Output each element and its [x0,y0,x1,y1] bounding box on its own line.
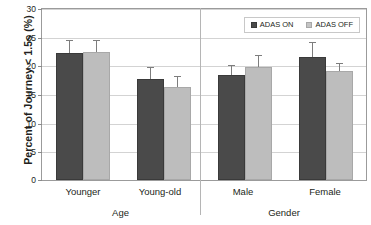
legend: ADAS ON ADAS OFF [244,17,360,33]
y-tick-label-10: 10 [27,120,36,128]
tick-mark-0 [38,180,42,181]
error-bar-cap [228,65,235,66]
y-tick-label-20: 20 [27,62,36,70]
y-tick-label-25: 25 [27,34,36,42]
bar-male-adas-off [245,67,272,180]
error-bar-cap [255,55,262,56]
bar-female-adas-on [299,57,326,180]
error-bar-male-adas-off [258,55,259,68]
legend-swatch-icon-adas-on [251,22,257,28]
y-tick-label-5: 5 [31,148,36,156]
bars-layer [42,9,366,180]
error-bar-male-adas-on [231,65,232,74]
bar-chart: Percent of Journey < 1.5s (%) 30 25 20 1… [0,0,371,225]
group-label-gender: Gender [201,207,367,218]
error-bar-young-old-adas-on [150,67,151,78]
bar-younger-adas-on [56,53,83,180]
y-tick-label-15: 15 [27,91,36,99]
y-tick-label-30: 30 [27,5,36,13]
error-bar-cap [147,67,154,68]
y-tick-label-0: 0 [31,176,36,184]
error-bar-younger-adas-on [69,40,70,53]
error-bar-young-old-adas-off [177,76,178,87]
error-bar-younger-adas-off [96,40,97,53]
bar-young-old-adas-on [137,79,164,180]
legend-swatch-icon-adas-off [306,22,312,28]
error-bar-cap [309,42,316,43]
category-label-younger: Younger [43,186,123,197]
error-bar-cap [93,40,100,41]
bar-younger-adas-off [83,52,110,180]
error-bar-female-adas-off [339,63,340,71]
error-bar-cap [66,40,73,41]
group-separator [200,8,201,215]
group-label-age: Age [41,207,200,218]
error-bar-cap [336,63,343,64]
bar-female-adas-off [326,71,353,180]
legend-entry-adas-on: ADAS ON [251,20,294,29]
legend-label-adas-off: ADAS OFF [315,20,353,29]
error-bar-female-adas-on [312,42,313,57]
category-label-young-old: Young-old [120,186,200,197]
gridline-0: 0 [42,180,366,181]
legend-entry-adas-off: ADAS OFF [306,20,353,29]
category-label-female: Female [285,186,365,197]
bar-male-adas-on [218,75,245,180]
bar-young-old-adas-off [164,87,191,180]
plot-area: 30 25 20 15 10 5 0 [41,8,367,181]
error-bar-cap [174,76,181,77]
category-label-male: Male [203,186,283,197]
legend-label-adas-on: ADAS ON [260,20,294,29]
